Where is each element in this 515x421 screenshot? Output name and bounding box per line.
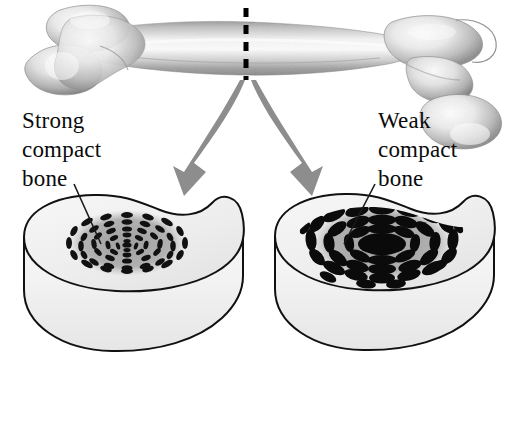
arrow-to-weak-section [251, 80, 323, 196]
weak-compact-bone-section [275, 194, 495, 350]
strong-label-line-3: bone [22, 166, 68, 191]
bone-cross-section-figure: Strong compact bone Weak compact bone [0, 0, 515, 421]
femur-condyle-highlight [45, 52, 79, 80]
strong-central-canal [122, 242, 131, 247]
strong-label-line-1: Strong [22, 108, 85, 133]
weak-label-line-3: bone [378, 166, 424, 191]
arrow-to-strong-section [173, 80, 245, 196]
femur-distal-end [25, 5, 145, 95]
strong-label-line-2: compact [22, 137, 102, 162]
weak-central-canal [358, 233, 406, 255]
femur-trochanter-highlight [408, 24, 456, 40]
weak-label-line-1: Weak [378, 108, 431, 133]
weak-label-line-2: compact [378, 137, 458, 162]
strong-compact-bone-label: Strong compact bone [22, 108, 102, 191]
section-arrows [173, 80, 323, 196]
femur-condyle-upper-highlight [70, 11, 110, 29]
